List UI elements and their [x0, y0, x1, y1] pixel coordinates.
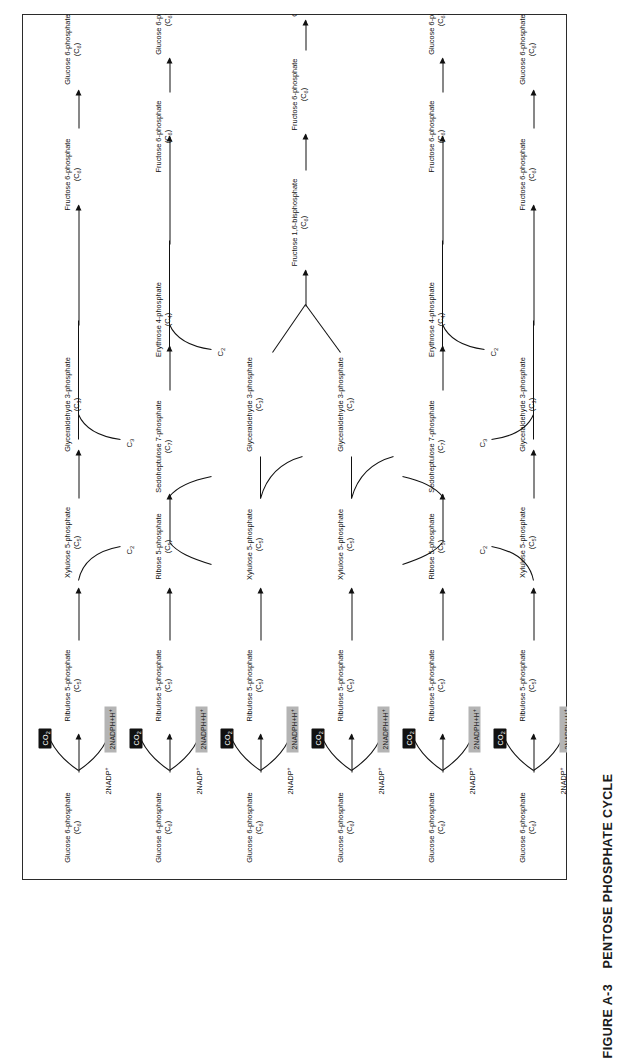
node-carbon: (C6) — [298, 50, 311, 138]
pathway-row-2: Glucose 6-phosphate (C6) CO2 2NADP+ 2NAD… — [119, 14, 207, 880]
node-label: Ribose 5-phosphate — [426, 504, 435, 588]
arrow-f6p-to-g6p — [442, 58, 443, 92]
node-label: Erythrose 4-phosphate — [426, 274, 435, 364]
nadp-reactant-label: 2NADP+ — [466, 767, 476, 794]
fragment-c2-label: C2 — [477, 545, 488, 554]
node-carbon: (C7) — [435, 390, 448, 502]
node-label: Sedoheptulose 7-phosphate — [153, 390, 162, 502]
node-carbon: (C3) — [526, 352, 539, 456]
co2-chip: CO2 — [129, 728, 142, 748]
node-carbon: (C6) — [435, 784, 448, 870]
node-label: Glyceraldehyde 3-phosphate — [244, 352, 253, 456]
node-carbon: (C5) — [71, 498, 84, 586]
figure-number: FIGURE A-3 — [601, 984, 615, 1058]
node-label: Glucose 6-phosphate — [153, 784, 162, 870]
node-carbon: (C6) — [162, 784, 175, 870]
node-label: Glucose 6-phosphate — [153, 14, 162, 62]
node-label: Glyceraldehyde 3-phosphate — [62, 352, 71, 456]
node-ribulose-5-phosphate: Ribulose 5-phosphate (C5) — [153, 640, 175, 730]
node-label: Sedoheptulose 7-phosphate — [426, 390, 435, 502]
node-label: Glucose 6-phosphate — [62, 784, 71, 870]
node-fructose-6-phosphate: Fructose 6-phosphate (C6) — [153, 92, 175, 180]
node-ribulose-5-phosphate: Ribulose 5-phosphate (C5) — [517, 640, 539, 730]
node-carbon: (C5) — [435, 640, 448, 730]
node-label: Glucose 6-phosphate — [426, 14, 435, 62]
nadp-reactant-label: 2NADP+ — [557, 767, 567, 794]
node-fructose-6-phosphate: Fructose 6-phosphate (C6) — [517, 130, 539, 218]
merge-branch-group: Glyceraldehyde 3-phosphate (C3) Glyceral… — [210, 14, 392, 880]
node-label: Fructose 6-phosphate — [153, 92, 162, 180]
node-carbon: (C6) — [162, 14, 175, 62]
node-label: Xylulose 5-phosphate — [62, 498, 71, 586]
node-ribulose-5-phosphate: Ribulose 5-phosphate (C5) — [426, 640, 448, 730]
node-glyceraldehyde-3-phosphate: Glyceraldehyde 3-phosphate (C3) — [517, 352, 539, 456]
node-ribulose-5-phosphate: Ribulose 5-phosphate (C5) — [62, 640, 84, 730]
node-glucose-6-phosphate-out: Glucose 6-phosphate (C6) — [517, 14, 539, 92]
figure-caption: FIGURE A-3 PENTOSE PHOSPHATE CYCLE — [588, 0, 628, 923]
node-carbon: (C6) — [435, 14, 448, 62]
node-carbon: (C3) — [71, 352, 84, 456]
node-carbon: (C6) — [298, 14, 311, 24]
node-label: Fructose 6-phosphate — [517, 130, 526, 218]
co2-chip: CO2 — [402, 728, 415, 748]
node-label: Fructose 6-phosphate — [289, 50, 298, 138]
node-label: Ribose 5-phosphate — [153, 504, 162, 588]
node-carbon: (C4) — [435, 274, 448, 364]
node-glucose-6-phosphate: Glucose 6-phosphate (C6) — [517, 784, 539, 870]
node-label: Glucose 6-phosphate — [289, 14, 298, 24]
node-label: Ribulose 5-phosphate — [517, 640, 526, 730]
node-label: Ribulose 5-phosphate — [426, 640, 435, 730]
arrow-g6p-to-ru5p — [78, 734, 79, 772]
co2-chip: CO2 — [493, 728, 506, 748]
fragment-c3-label: C3 — [477, 438, 488, 447]
node-ribose-5-phosphate: Ribose 5-phosphate (C5) — [153, 504, 175, 588]
node-glucose-6-phosphate-merge-out: Glucose 6-phosphate (C6) — [289, 14, 311, 24]
node-carbon: (C6) — [298, 170, 311, 274]
node-label: Fructose 1,6-bisphosphate — [289, 170, 298, 274]
arrow-ru5p-to-xu5p — [533, 588, 534, 640]
node-fructose-6-phosphate-merge: Fructose 6-phosphate (C6) — [289, 50, 311, 138]
node-carbon: (C3) — [344, 352, 357, 456]
pathway-row-5: Glucose 6-phosphate (C6) CO2 2NADP+ 2NAD… — [392, 14, 480, 880]
node-glucose-6-phosphate-out: Glucose 6-phosphate (C6) — [426, 14, 448, 62]
node-erythrose-4-phosphate: Erythrose 4-phosphate (C4) — [153, 274, 175, 364]
node-sedoheptulose-7-phosphate: Sedoheptulose 7-phosphate (C7) — [426, 390, 448, 502]
node-glucose-6-phosphate-out: Glucose 6-phosphate (C6) — [153, 14, 175, 62]
node-carbon: (C6) — [162, 92, 175, 180]
arrow-xu5p-to-gap — [78, 450, 79, 498]
arrow-g6p-to-ru5p — [169, 734, 170, 772]
node-carbon: (C7) — [162, 390, 175, 502]
node-label: Glucose 6-phosphate — [62, 14, 71, 92]
node-label: Xylulose 5-phosphate — [517, 498, 526, 586]
arrow-ru5p-to-xu5p — [78, 588, 79, 640]
node-label: Ribulose 5-phosphate — [153, 640, 162, 730]
nadph-chip: 2NADPH+H+ — [559, 706, 567, 752]
node-sedoheptulose-7-phosphate: Sedoheptulose 7-phosphate (C7) — [153, 390, 175, 502]
pathway-row-6: Glucose 6-phosphate (C6) CO2 2NADP+ 2NAD… — [483, 14, 567, 880]
node-glyceraldehyde-3-phosphate-upper: Glyceraldehyde 3-phosphate (C3) — [244, 352, 266, 456]
node-carbon: (C6) — [71, 130, 84, 218]
node-label: Erythrose 4-phosphate — [153, 274, 162, 364]
node-carbon: (C4) — [162, 274, 175, 364]
pathway-diagram-canvas: Glucose 6-phosphate (C6) CO2 2NADP+ 2NAD… — [22, 14, 567, 880]
arrow-f6p-to-g6p — [533, 90, 534, 128]
node-carbon: (C6) — [71, 14, 84, 92]
merge-v-connector — [210, 14, 392, 880]
node-carbon: (C6) — [435, 92, 448, 180]
node-label: Ribulose 5-phosphate — [62, 640, 71, 730]
node-carbon: (C6) — [71, 784, 84, 870]
co2-chip: CO2 — [38, 728, 51, 748]
node-carbon: (C6) — [526, 14, 539, 92]
node-label: Fructose 6-phosphate — [426, 92, 435, 180]
arrow-xu5p-to-gap — [533, 450, 534, 498]
nadph-chip: 2NADPH+H+ — [468, 706, 480, 752]
node-carbon: (C3) — [253, 352, 266, 456]
node-carbon: (C5) — [71, 640, 84, 730]
node-fructose-6-phosphate: Fructose 6-phosphate (C6) — [426, 92, 448, 180]
node-glucose-6-phosphate: Glucose 6-phosphate (C6) — [62, 784, 84, 870]
arrow-f6p-to-g6p — [169, 58, 170, 92]
node-carbon: (C5) — [162, 640, 175, 730]
nadp-reactant-label: 2NADP+ — [193, 767, 203, 794]
node-fructose-6-phosphate: Fructose 6-phosphate (C6) — [62, 130, 84, 218]
arrow-ru5p-to-r5p — [442, 588, 443, 640]
